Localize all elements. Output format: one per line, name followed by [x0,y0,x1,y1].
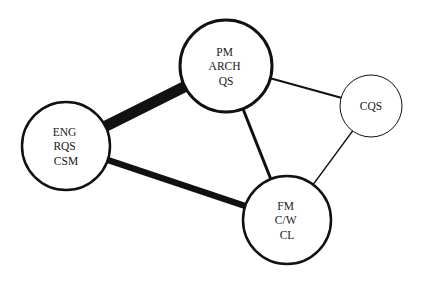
node-label: ENG RQS CSM [53,126,80,167]
node-label: CQS [360,100,382,112]
node-cqs: CQS [340,75,402,137]
node-label-line: C/W [275,214,297,226]
node-label-line: ENG [53,126,77,138]
node-label-line: CSM [54,155,78,167]
node-label-line: FM [277,200,294,212]
node-fm-cw-cl: FM C/W CL [243,176,331,264]
node-pm-arch-qs: PM ARCH QS [180,20,272,112]
node-label-line: RQS [53,140,75,152]
node-label-line: ARCH [209,60,241,72]
network-diagram: PM ARCH QS ENG RQS CSM FM C/W CL CQ [0,0,424,281]
node-eng-rqs-csm: ENG RQS CSM [22,102,110,190]
node-label-line: CL [280,229,295,241]
node-label-line: PM [216,46,233,58]
node-label-line: QS [219,75,234,87]
node-label-line: CQS [360,100,382,112]
